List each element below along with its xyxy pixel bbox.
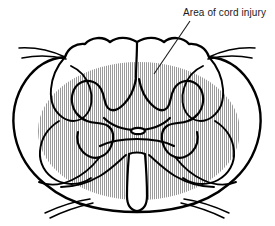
annotation-label: Area of cord injury [183,7,266,18]
spinal-cord-diagram: Area of cord injury [0,0,275,226]
dorsal-rootlets-left [19,48,66,59]
central-canal [131,128,145,134]
spinal-cord-figure: Area of cord injury [0,0,275,226]
dorsal-rootlets-right [208,48,255,59]
anterior-median-fissure [127,153,147,212]
posterior-median-sulcus [136,43,137,78]
